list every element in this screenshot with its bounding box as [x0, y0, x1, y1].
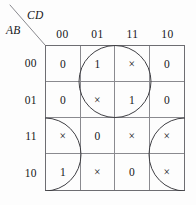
kmap-cell-r0c2: ×	[115, 46, 150, 82]
kmap-cell-grid: 0 1 × 0 0 × 1 0 × 0 × × 1 × 0 ×	[45, 45, 185, 191]
column-variables-label: CD	[27, 9, 44, 21]
kmap-cell-r3c0: 1	[46, 154, 81, 190]
kmap-cell-r1c0: 0	[46, 82, 81, 118]
kmap-cell-r3c3: ×	[150, 154, 185, 190]
kmap-cell-r2c2: ×	[115, 118, 150, 154]
row-header-01: 01	[8, 82, 42, 119]
kmap-cell-r2c0: ×	[46, 118, 81, 154]
column-header-01: 01	[80, 26, 115, 43]
column-header-10: 10	[150, 26, 185, 43]
column-header-11: 11	[115, 26, 150, 43]
row-header-00: 00	[8, 45, 42, 82]
kmap-cell-r1c1: ×	[81, 82, 116, 118]
column-header-00: 00	[45, 26, 80, 43]
kmap-cell-r0c3: 0	[150, 46, 185, 82]
kmap-cell-r0c1: 1	[81, 46, 116, 82]
row-header-11: 11	[8, 118, 42, 155]
kmap-cell-r3c1: ×	[81, 154, 116, 190]
row-header-10: 10	[8, 155, 42, 192]
column-header-row: 00 01 11 10	[45, 26, 185, 43]
kmap-cell-r2c3: ×	[150, 118, 185, 154]
kmap-cell-r1c2: 1	[115, 82, 150, 118]
kmap-cell-r2c1: 0	[81, 118, 116, 154]
kmap-cell-r1c3: 0	[150, 82, 185, 118]
row-variables-label: AB	[6, 24, 21, 36]
kmap-cell-r0c0: 0	[46, 46, 81, 82]
row-header-column: 00 01 11 10	[8, 45, 42, 191]
karnaugh-map-figure: CD AB 00 01 11 10 00 01 11 10 0 1 × 0 0 …	[0, 0, 196, 205]
kmap-cell-r3c2: 0	[115, 154, 150, 190]
